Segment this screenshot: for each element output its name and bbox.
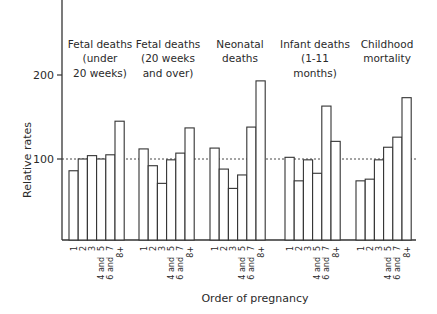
x-tick-label: 3 <box>304 246 313 251</box>
x-tick-label: 1 <box>286 246 295 251</box>
group-label: Fetal deaths <box>68 38 133 50</box>
bar <box>238 175 247 240</box>
bar <box>374 160 383 240</box>
y-axis-label: Relative rates <box>21 122 34 198</box>
bar <box>139 149 148 240</box>
bar <box>322 106 331 240</box>
group-label: and over) <box>143 67 194 79</box>
x-tick-label: 7 <box>393 246 402 251</box>
x-tick-label: 8+ <box>332 246 341 258</box>
bar <box>148 166 157 240</box>
x-tick-label: 8+ <box>186 246 195 258</box>
bar <box>294 181 303 240</box>
x-tick-label: 3 <box>158 246 167 251</box>
y-tick-label: 200 <box>33 69 54 82</box>
group-label: (under <box>83 52 119 64</box>
bar <box>115 121 124 240</box>
x-tick-label: 3 <box>88 246 97 251</box>
bar <box>210 148 219 240</box>
group-label: deaths <box>222 52 258 64</box>
bar <box>185 128 194 240</box>
bar <box>228 188 237 240</box>
y-tick-label: 100 <box>33 153 54 166</box>
bar <box>167 160 176 240</box>
bar <box>78 159 87 240</box>
group-label: Fetal deaths <box>136 38 201 50</box>
x-tick-label: 8+ <box>403 246 412 258</box>
bar <box>331 141 340 240</box>
bar <box>87 156 96 240</box>
group-label: 20 weeks) <box>73 67 127 79</box>
x-tick-sublabel: 4 and <box>238 257 247 280</box>
x-tick-label: 2 <box>79 246 88 251</box>
group-label: Neonatal <box>216 38 263 50</box>
bar <box>365 179 374 240</box>
x-tick-label: 1 <box>211 246 220 251</box>
bar <box>157 183 166 240</box>
group-label: (20 weeks <box>141 52 195 64</box>
bar <box>219 169 228 240</box>
x-tick-label: 7 <box>106 246 115 251</box>
x-tick-label: 8+ <box>257 246 266 258</box>
x-tick-label: 5 <box>238 246 247 251</box>
group-label: months) <box>293 67 337 79</box>
x-tick-label: 1 <box>140 246 149 251</box>
x-tick-label: 2 <box>366 246 375 251</box>
bar <box>69 171 78 240</box>
bar <box>256 81 265 240</box>
x-tick-label: 5 <box>384 246 393 251</box>
x-tick-label: 7 <box>176 246 185 251</box>
bar <box>106 155 115 240</box>
x-tick-sublabel: 4 and <box>167 257 176 280</box>
x-tick-label: 1 <box>70 246 79 251</box>
bar <box>285 157 294 240</box>
x-tick-label: 7 <box>247 246 256 251</box>
bar <box>402 98 411 240</box>
x-tick-sublabel: 6 and <box>393 257 402 280</box>
group-label: Childhood <box>361 38 414 50</box>
x-tick-label: 2 <box>295 246 304 251</box>
group-label: mortality <box>363 52 411 64</box>
x-tick-sublabel: 4 and <box>384 257 393 280</box>
bars <box>69 81 411 240</box>
bar <box>384 147 393 240</box>
x-tick-label: 8+ <box>116 246 125 258</box>
bar <box>247 127 256 240</box>
x-tick-label: 1 <box>357 246 366 251</box>
x-tick-label: 3 <box>229 246 238 251</box>
x-tick-label: 3 <box>375 246 384 251</box>
x-tick-sublabel: 6 and <box>322 257 331 280</box>
x-tick-label: 2 <box>149 246 158 251</box>
x-tick-label: 5 <box>167 246 176 251</box>
x-tick-label: 2 <box>220 246 229 251</box>
x-tick-label: 7 <box>322 246 331 251</box>
bar <box>97 159 106 240</box>
chart: 100200Relative ratesOrder of pregnancy 1… <box>0 0 437 314</box>
x-tick-sublabel: 6 and <box>106 257 115 280</box>
x-tick-sublabel: 6 and <box>247 257 256 280</box>
x-tick-sublabel: 4 and <box>97 257 106 280</box>
bar <box>176 153 185 240</box>
group-label: Infant deaths <box>280 38 350 50</box>
bar <box>393 137 402 240</box>
x-tick-sublabel: 4 and <box>313 257 322 280</box>
x-tick-label: 5 <box>97 246 106 251</box>
bar <box>303 160 312 240</box>
x-tick-sublabel: 6 and <box>176 257 185 280</box>
x-tick-label: 5 <box>313 246 322 251</box>
group-label: (1-11 <box>301 52 329 64</box>
bar <box>313 173 322 240</box>
x-axis-label: Order of pregnancy <box>201 292 309 305</box>
bar <box>356 181 365 240</box>
